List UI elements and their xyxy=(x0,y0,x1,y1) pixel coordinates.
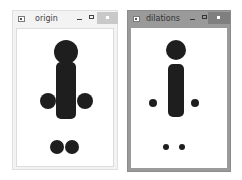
head-circle xyxy=(54,40,78,64)
left-hand-circle xyxy=(149,99,157,107)
titlebar[interactable]: origin xyxy=(13,11,117,28)
right-foot-circle xyxy=(65,140,79,154)
window-title: origin xyxy=(35,13,58,25)
window-origin[interactable]: origin xyxy=(12,10,118,170)
right-hand-circle xyxy=(191,99,199,107)
right-hand-circle xyxy=(77,93,93,109)
close-button[interactable] xyxy=(208,12,230,24)
window-dilations[interactable]: dilations xyxy=(127,10,231,172)
body-rect xyxy=(168,64,184,117)
app-icon[interactable] xyxy=(18,16,25,22)
image-canvas xyxy=(16,28,114,167)
maximize-button[interactable] xyxy=(87,13,97,24)
body-rect xyxy=(56,62,76,119)
left-hand-circle xyxy=(40,93,56,109)
head-circle xyxy=(166,40,186,60)
minimize-button[interactable] xyxy=(75,13,85,24)
window-title: dilations xyxy=(146,13,180,25)
left-foot-circle xyxy=(50,140,64,154)
close-button[interactable] xyxy=(97,12,118,24)
right-foot-circle xyxy=(179,144,185,150)
app-icon[interactable] xyxy=(133,16,140,22)
image-canvas xyxy=(131,28,227,168)
left-foot-circle xyxy=(163,144,169,150)
minimize-button[interactable] xyxy=(188,13,198,24)
titlebar[interactable]: dilations xyxy=(128,11,230,28)
